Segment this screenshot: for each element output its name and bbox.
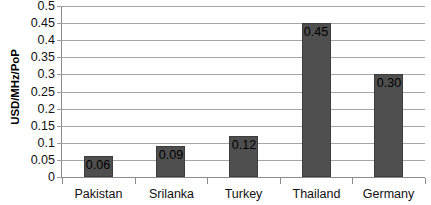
y-axis-tick-label: 0.3	[0, 68, 55, 80]
gridline	[62, 23, 425, 24]
gridline	[62, 126, 425, 127]
y-axis-tick-mark	[57, 126, 62, 127]
y-axis-tick-label: 0.05	[0, 154, 55, 166]
y-axis-tick-mark	[57, 177, 62, 178]
gridline	[62, 92, 425, 93]
y-axis-tick-label: 0.5	[0, 0, 55, 12]
bar-value-label: 0.30	[359, 77, 419, 90]
bar-value-label: 0.09	[141, 149, 201, 162]
y-axis-tick-mark	[57, 40, 62, 41]
gridline	[62, 57, 425, 58]
gridline	[62, 109, 425, 110]
x-axis-category-label: Turkey	[207, 187, 280, 201]
y-axis-tick-mark	[57, 23, 62, 24]
y-axis-tick-mark	[57, 92, 62, 93]
x-axis-tick-mark	[352, 178, 353, 184]
bar-value-label: 0.45	[286, 26, 346, 39]
y-axis-tick-label: 0.15	[0, 120, 55, 132]
y-axis-tick-label: 0.35	[0, 51, 55, 63]
x-axis-tick-mark	[207, 178, 208, 184]
y-axis-tick-labels: 00.050.10.150.20.250.30.350.40.450.5	[0, 0, 55, 182]
y-axis-tick-label: 0.25	[0, 86, 55, 98]
x-axis-tick-mark	[425, 178, 426, 184]
x-axis-tick-mark	[280, 178, 281, 184]
bar	[302, 23, 331, 177]
y-axis-tick-label: 0.2	[0, 103, 55, 115]
gridline	[62, 74, 425, 75]
bar-value-label: 0.12	[214, 139, 274, 152]
y-axis-tick-mark	[57, 160, 62, 161]
bar-value-label: 0.06	[68, 159, 128, 172]
y-axis-tick-mark	[57, 6, 62, 7]
x-axis-line	[61, 177, 425, 178]
x-axis-category-label: Pakistan	[62, 187, 135, 201]
x-axis-category-label: Srilanka	[135, 187, 208, 201]
gridline	[62, 40, 425, 41]
y-axis-tick-label: 0.45	[0, 17, 55, 29]
x-axis-category-label: Thailand	[280, 187, 353, 201]
x-axis-category-label: Germany	[352, 187, 425, 201]
x-axis-tick-mark	[62, 178, 63, 184]
y-axis-tick-mark	[57, 57, 62, 58]
gridline	[62, 6, 425, 7]
y-axis-tick-label: 0.4	[0, 34, 55, 46]
bar-chart: USD/MHz/PoP 00.050.10.150.20.250.30.350.…	[0, 0, 431, 205]
y-axis-tick-label: 0	[0, 171, 55, 183]
x-axis-tick-mark	[135, 178, 136, 184]
y-axis-tick-mark	[57, 74, 62, 75]
y-axis-tick-mark	[57, 143, 62, 144]
y-axis-tick-label: 0.1	[0, 137, 55, 149]
y-axis-tick-mark	[57, 109, 62, 110]
